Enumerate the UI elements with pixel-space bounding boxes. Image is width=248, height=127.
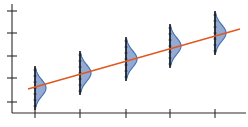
distribution-curve bbox=[35, 68, 46, 108]
regression-line bbox=[28, 29, 240, 89]
regression-line-group bbox=[28, 29, 240, 89]
regression-diagram bbox=[0, 0, 248, 127]
normal-distribution bbox=[34, 66, 47, 110]
